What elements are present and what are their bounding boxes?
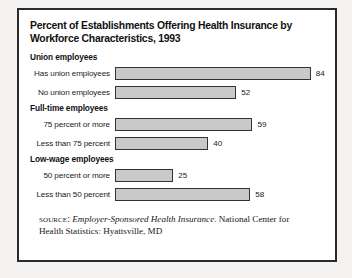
source-label: SOURCE: — [39, 213, 70, 224]
bar-group: Union employeesHas union employees84No u… — [30, 52, 324, 102]
bar-group-header: Union employees — [30, 52, 324, 63]
bar-track: 59 — [115, 115, 324, 134]
bar — [115, 169, 173, 182]
bar-row: Less than 75 percent40 — [30, 134, 324, 153]
source-title: Employer-Sponsored Health Insurance. — [72, 214, 216, 224]
bar — [115, 86, 236, 99]
bar-row: 50 percent or more25 — [30, 166, 324, 185]
chart-title: Percent of Establishments Offering Healt… — [30, 20, 324, 45]
bar-row: 75 percent or more59 — [30, 115, 324, 134]
bar-category-label: Has union employees — [30, 69, 115, 79]
chart-body: Union employeesHas union employees84No u… — [30, 52, 324, 204]
bar-category-label: No union employees — [30, 88, 115, 98]
bar-category-label: Less than 50 percent — [30, 190, 115, 200]
bar-group: Full-time employees75 percent or more59L… — [30, 103, 324, 153]
bar-group-header: Full-time employees — [30, 103, 324, 114]
source-note: SOURCE: Employer-Sponsored Health Insura… — [30, 213, 324, 237]
bar-value-label: 84 — [311, 69, 325, 79]
bar-row: Has union employees84 — [30, 64, 324, 83]
bar-row: Less than 50 percent58 — [30, 185, 324, 204]
bar-category-label: 50 percent or more — [30, 171, 115, 181]
bar-value-label: 58 — [250, 190, 264, 200]
bar-value-label: 25 — [173, 171, 187, 181]
figure-container: Percent of Establishments Offering Healt… — [0, 0, 352, 278]
bar-value-label: 52 — [236, 88, 250, 98]
bar-category-label: 75 percent or more — [30, 120, 115, 130]
bar-track: 52 — [115, 83, 324, 102]
bar-track: 58 — [115, 185, 324, 204]
bar-value-label: 40 — [208, 139, 222, 149]
bar-track: 84 — [115, 64, 325, 83]
bar-group-header: Low-wage employees — [30, 154, 324, 165]
bar-track: 40 — [115, 134, 324, 153]
bar — [115, 118, 252, 131]
bar — [115, 67, 311, 80]
figure-inner: Percent of Establishments Offering Healt… — [19, 10, 335, 260]
bar — [115, 137, 208, 150]
bar-row: No union employees52 — [30, 83, 324, 102]
figure-frame: Percent of Establishments Offering Healt… — [17, 8, 337, 262]
bar-category-label: Less than 75 percent — [30, 139, 115, 149]
bar-value-label: 59 — [252, 120, 266, 130]
bar — [115, 188, 250, 201]
bar-group: Low-wage employees50 percent or more25Le… — [30, 154, 324, 204]
bar-track: 25 — [115, 166, 324, 185]
